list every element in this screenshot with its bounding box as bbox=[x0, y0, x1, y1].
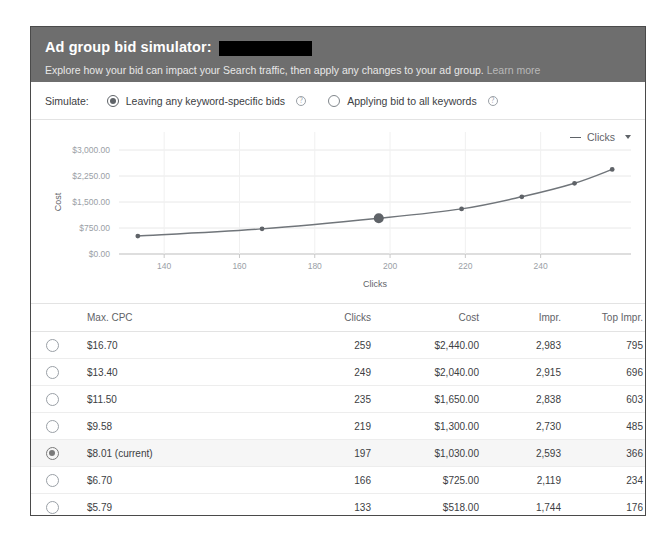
chart-point[interactable] bbox=[610, 167, 615, 172]
row-select-cell[interactable] bbox=[31, 467, 73, 494]
dialog-subtitle-text: Explore how your bid can impact your Sea… bbox=[45, 64, 484, 76]
row-select-cell[interactable] bbox=[31, 332, 73, 359]
row-select-cell[interactable] bbox=[31, 359, 73, 386]
x-tick-label: 220 bbox=[458, 261, 472, 271]
cell-cost: $2,440.00 bbox=[379, 332, 487, 359]
cell-top-impr: 795 bbox=[569, 332, 646, 359]
cell-top-impr: 696 bbox=[569, 359, 646, 386]
column-header-cost: Cost bbox=[379, 304, 487, 332]
y-axis-title: Cost bbox=[53, 192, 63, 211]
cell-max-cpc: $11.50 bbox=[73, 386, 299, 413]
row-radio-wrap[interactable] bbox=[31, 332, 73, 358]
simulate-options-row: Simulate: Leaving any keyword-specific b… bbox=[31, 82, 645, 120]
radio-label-leaving-keyword-bids: Leaving any keyword-specific bids bbox=[126, 95, 285, 107]
cell-max-cpc: $8.01 (current) bbox=[73, 440, 299, 467]
row-radio-wrap[interactable] bbox=[31, 440, 73, 466]
column-header-clicks: Clicks bbox=[299, 304, 379, 332]
dialog-title-row: Ad group bid simulator: bbox=[45, 37, 631, 57]
row-select-cell[interactable] bbox=[31, 413, 73, 440]
radio-icon-leaving-keyword-bids[interactable] bbox=[107, 95, 119, 107]
page-title: Ad group bid simulator: bbox=[45, 39, 212, 55]
radio-icon-bid-option[interactable] bbox=[46, 339, 59, 352]
cell-max-cpc: $13.40 bbox=[73, 359, 299, 386]
bid-simulator-dialog: Ad group bid simulator: Explore how your… bbox=[30, 26, 646, 516]
x-axis-title: Clicks bbox=[363, 279, 387, 289]
radio-icon-bid-option[interactable] bbox=[46, 366, 59, 379]
cell-cost: $2,040.00 bbox=[379, 359, 487, 386]
radio-icon-bid-option[interactable] bbox=[46, 474, 59, 487]
column-header-select bbox=[31, 304, 73, 332]
cell-cost: $1,650.00 bbox=[379, 386, 487, 413]
help-icon-leaving-keyword-bids[interactable]: ? bbox=[296, 96, 306, 106]
radio-icon-apply-all-keywords[interactable] bbox=[328, 95, 340, 107]
row-radio-wrap[interactable] bbox=[31, 386, 73, 412]
column-header-impr: Impr. bbox=[487, 304, 569, 332]
cell-max-cpc: $6.70 bbox=[73, 467, 299, 494]
column-header-top-impr: Top Impr. bbox=[569, 304, 646, 332]
cell-top-impr: 234 bbox=[569, 467, 646, 494]
cell-impr: 2,730 bbox=[487, 413, 569, 440]
y-tick-label: $3,000.00 bbox=[72, 145, 110, 155]
learn-more-link[interactable]: Learn more bbox=[487, 64, 541, 76]
cell-clicks: 197 bbox=[299, 440, 379, 467]
chart-canvas: $0.00$750.00$1,500.00$2,250.00$3,000.001… bbox=[31, 120, 645, 302]
table-row[interactable]: $16.70259$2,440.002,98379515 bbox=[31, 332, 646, 359]
cell-top-impr: 603 bbox=[569, 386, 646, 413]
chart-point[interactable] bbox=[519, 194, 524, 199]
table-row[interactable]: $11.50235$1,650.002,83860314 bbox=[31, 386, 646, 413]
table-row[interactable]: $6.70166$725.002,11923410 bbox=[31, 467, 646, 494]
row-select-cell[interactable] bbox=[31, 440, 73, 467]
cell-clicks: 249 bbox=[299, 359, 379, 386]
x-tick-label: 180 bbox=[308, 261, 322, 271]
row-radio-wrap[interactable] bbox=[31, 359, 73, 385]
table-row[interactable]: $5.79133$518.001,7441769 bbox=[31, 494, 646, 517]
cell-cost: $1,300.00 bbox=[379, 413, 487, 440]
cell-cost: $1,030.00 bbox=[379, 440, 487, 467]
chart-point-current[interactable] bbox=[374, 213, 384, 223]
cost-vs-clicks-chart: Clicks $0.00$750.00$1,500.00$2,250.00$3,… bbox=[31, 120, 645, 304]
cell-impr: 2,593 bbox=[487, 440, 569, 467]
row-select-cell[interactable] bbox=[31, 494, 73, 517]
row-radio-wrap[interactable] bbox=[31, 494, 73, 516]
table-row[interactable]: $8.01 (current)197$1,030.002,59336612 bbox=[31, 440, 646, 467]
row-radio-wrap[interactable] bbox=[31, 413, 73, 439]
y-tick-label: $1,500.00 bbox=[72, 197, 110, 207]
chart-point[interactable] bbox=[260, 226, 265, 231]
cell-impr: 1,744 bbox=[487, 494, 569, 517]
table-row[interactable]: $13.40249$2,040.002,91569615 bbox=[31, 359, 646, 386]
column-header-max-cpc: Max. CPC bbox=[73, 304, 299, 332]
x-tick-label: 160 bbox=[232, 261, 246, 271]
row-radio-wrap[interactable] bbox=[31, 467, 73, 493]
cell-clicks: 235 bbox=[299, 386, 379, 413]
radio-label-apply-all-keywords: Applying bid to all keywords bbox=[347, 95, 477, 107]
chart-point[interactable] bbox=[135, 234, 140, 239]
radio-icon-bid-option[interactable] bbox=[46, 393, 59, 406]
help-icon-apply-all-keywords[interactable]: ? bbox=[488, 96, 498, 106]
table-header-row: Max. CPC Clicks Cost Impr. Top Impr. Con… bbox=[31, 304, 646, 332]
row-select-cell[interactable] bbox=[31, 386, 73, 413]
table-row[interactable]: $9.58219$1,300.002,73048513 bbox=[31, 413, 646, 440]
radio-icon-bid-option[interactable] bbox=[46, 501, 59, 514]
cell-cost: $518.00 bbox=[379, 494, 487, 517]
x-tick-label: 200 bbox=[383, 261, 397, 271]
cell-impr: 2,983 bbox=[487, 332, 569, 359]
simulate-label: Simulate: bbox=[45, 95, 89, 107]
cell-clicks: 166 bbox=[299, 467, 379, 494]
radio-option-leaving-keyword-bids[interactable]: Leaving any keyword-specific bids ? bbox=[107, 95, 306, 107]
cell-impr: 2,915 bbox=[487, 359, 569, 386]
radio-icon-bid-option[interactable] bbox=[46, 447, 59, 460]
chart-point[interactable] bbox=[572, 181, 577, 186]
radio-icon-bid-option[interactable] bbox=[46, 420, 59, 433]
y-tick-label: $750.00 bbox=[79, 223, 110, 233]
cell-clicks: 133 bbox=[299, 494, 379, 517]
dialog-header: Ad group bid simulator: Explore how your… bbox=[31, 27, 645, 82]
cell-impr: 2,119 bbox=[487, 467, 569, 494]
chart-point[interactable] bbox=[459, 207, 464, 212]
cell-max-cpc: $9.58 bbox=[73, 413, 299, 440]
cell-top-impr: 366 bbox=[569, 440, 646, 467]
cell-cost: $725.00 bbox=[379, 467, 487, 494]
radio-option-apply-all-keywords[interactable]: Applying bid to all keywords ? bbox=[328, 95, 498, 107]
cell-max-cpc: $16.70 bbox=[73, 332, 299, 359]
cell-impr: 2,838 bbox=[487, 386, 569, 413]
table-body: $16.70259$2,440.002,98379515$13.40249$2,… bbox=[31, 332, 646, 517]
